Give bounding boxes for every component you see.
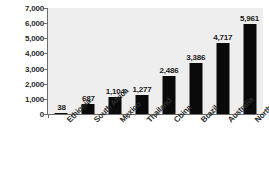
x-axis-tick-mark [48,115,49,118]
x-axis-tick-mark [129,115,130,118]
y-axis-tick-mark [44,23,47,24]
x-axis-category-labels: EthiopiaSouth AfricaMexicoThailandChinaB… [48,118,263,170]
y-axis-tick-label: 5,000 [14,34,44,43]
y-axis-tick-label: 4,000 [14,49,44,58]
y-axis-tick-mark [44,99,47,100]
bar-slot: 38 [48,8,75,114]
x-axis-tick-mark [156,115,157,118]
y-axis-tick-label: 1,000 [14,94,44,103]
y-axis-tick-label: 3,000 [14,64,44,73]
y-axis-tick-label: 2,000 [14,79,44,88]
y-axis-tick-mark [44,114,47,115]
y-axis-tick-mark [44,69,47,70]
bar-value-label: 1,277 [133,85,152,94]
x-axis-category-label: Ethiopia [65,118,71,124]
y-axis-tick-mark [44,38,47,39]
x-axis-category-label: Thailand [145,118,151,124]
y-axis-tick-mark [44,84,47,85]
bar[interactable] [189,63,202,114]
bar-value-label: 38 [57,103,66,112]
x-axis-tick-mark [102,115,103,118]
bar-value-label: 4,717 [213,33,232,42]
x-axis-category-label: South Africa [92,118,98,124]
bar-value-label: 5,961 [240,14,259,23]
y-axis-tick-mark [44,8,47,9]
y-axis-tick-label: 7,000 [14,4,44,13]
x-axis-tick-mark [236,115,237,118]
x-axis-tick-mark [263,115,264,118]
x-axis-tick-mark [209,115,210,118]
bar-slot: 4,717 [209,8,236,114]
bar-value-label: 2,486 [159,66,178,75]
bar-slot: 1,277 [129,8,156,114]
x-axis-category-label: Australia [226,118,232,124]
x-axis-category-label: Mexico [118,118,124,124]
bar[interactable] [55,113,68,114]
x-axis-tick-mark [75,115,76,118]
y-axis-tick-label: 0 [14,110,44,119]
bar-value-label: 3,386 [186,53,205,62]
x-axis-tick-mark [182,115,183,118]
bars-layer: 386871,1041,2772,4863,3864,7175,961 [48,8,263,114]
bar[interactable] [216,43,229,114]
bar-slot: 3,386 [182,8,209,114]
y-axis-tick-label: 6,000 [14,19,44,28]
y-axis-tick-labels: 7,0006,0005,0004,0003,0002,0001,0000 [14,8,44,114]
bar-chart: cubic meters 7,0006,0005,0004,0003,0002,… [0,0,269,170]
x-axis-category-label: Brazil [199,118,205,124]
y-axis-tick-mark [44,53,47,54]
x-axis-category-label: China [172,118,178,124]
x-axis-category-label: North America [253,118,259,124]
